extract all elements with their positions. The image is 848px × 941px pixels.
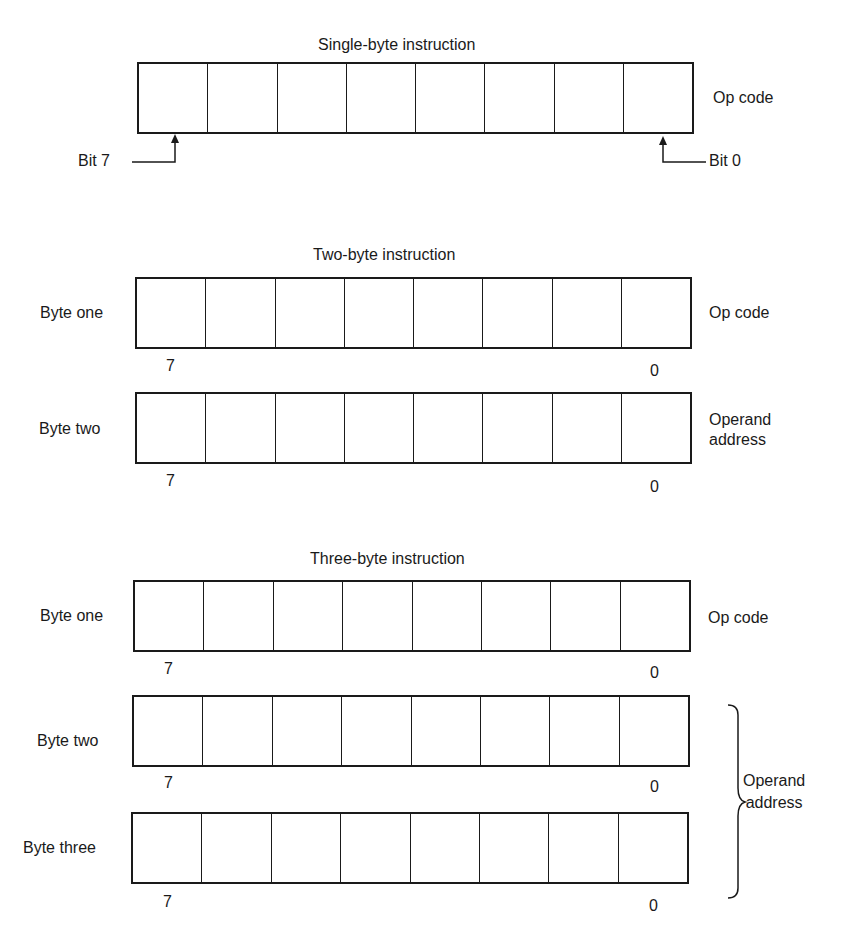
connector-lines <box>0 0 848 941</box>
brace-icon <box>728 705 745 898</box>
bit0-arrow-icon <box>659 136 706 162</box>
bit7-arrow-icon <box>132 134 179 162</box>
